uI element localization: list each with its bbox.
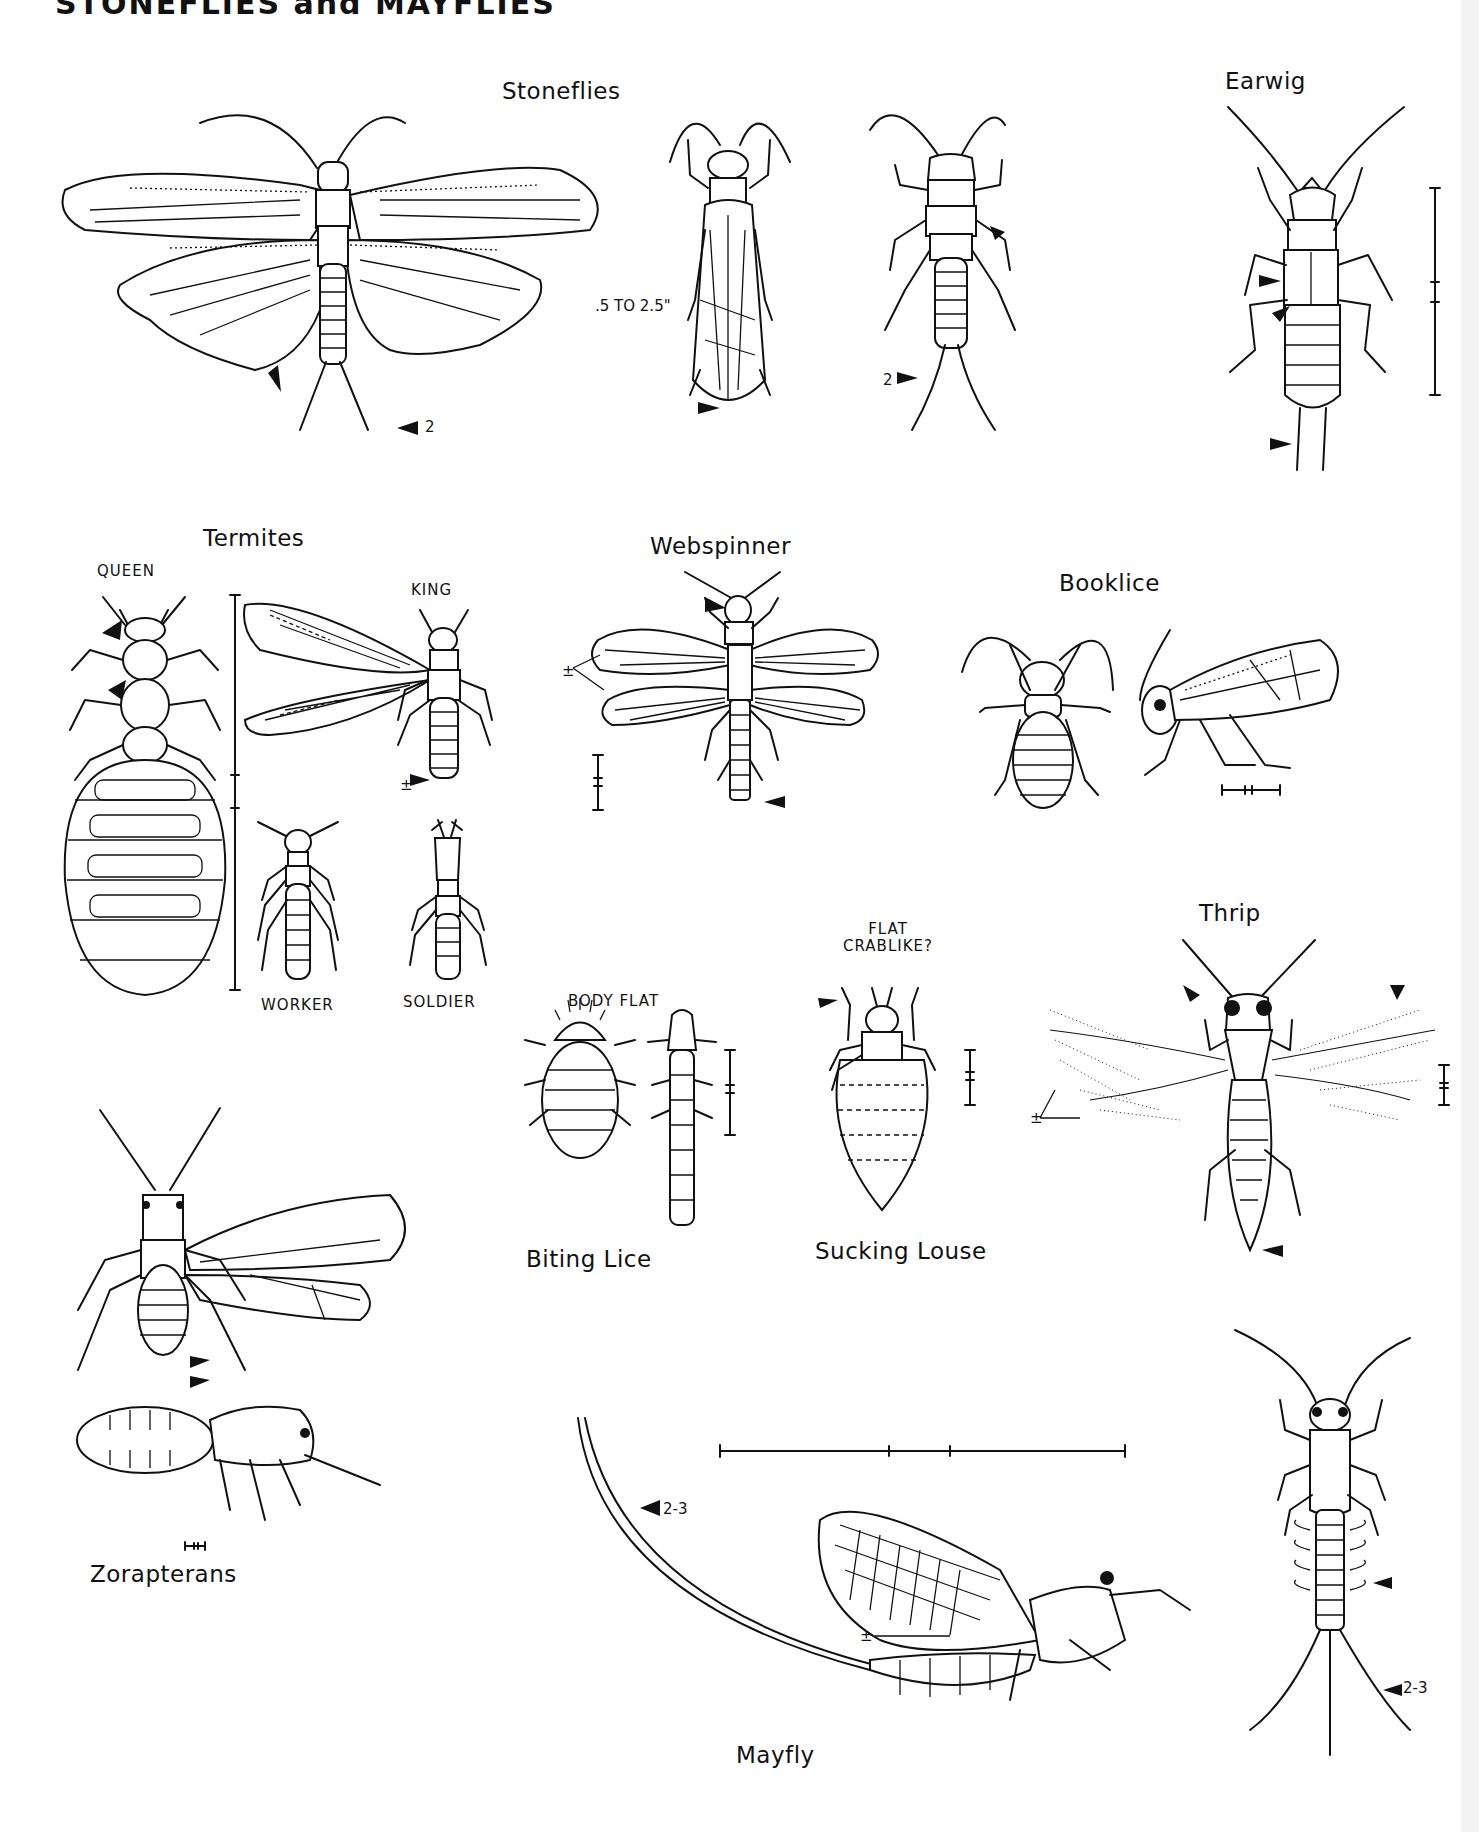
earwig-illustration xyxy=(1228,107,1440,470)
stonefly-nymph-illustration xyxy=(870,115,1015,430)
mayfly-nymph-illustration xyxy=(1235,1330,1410,1755)
stonefly-folded-illustration xyxy=(670,124,790,414)
termite-king-illustration xyxy=(244,604,492,786)
illustration-canvas xyxy=(0,0,1479,1832)
mayfly-adult-illustration xyxy=(578,1418,1190,1700)
termite-worker-illustration xyxy=(258,822,338,979)
webspinner-illustration xyxy=(573,572,878,810)
sucking-louse-illustration xyxy=(818,988,975,1210)
zorapteran-winged-illustration xyxy=(78,1108,405,1388)
thrip-illustration xyxy=(1040,940,1449,1257)
termite-soldier-illustration xyxy=(410,820,486,979)
stonefly-adult-illustration xyxy=(63,115,598,435)
zorapteran-side-illustration xyxy=(77,1407,380,1550)
booklice-illustration xyxy=(962,630,1338,808)
biting-lice-illustration xyxy=(525,998,735,1225)
termite-queen-illustration xyxy=(65,595,240,995)
